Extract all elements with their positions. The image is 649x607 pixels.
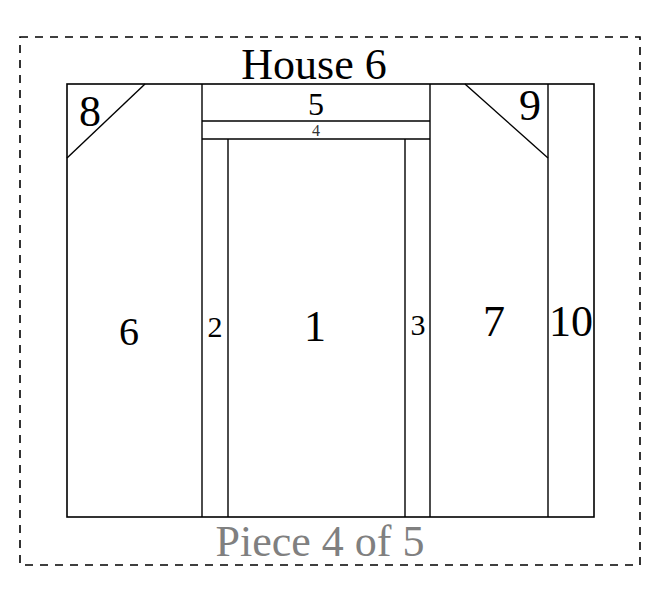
outer-block: [67, 84, 594, 517]
diagram-title: House 6: [241, 43, 386, 87]
piece-label-6: 6: [119, 312, 139, 352]
cut-line-dashed-border: [20, 37, 640, 565]
piece-label-8: 8: [79, 90, 101, 134]
piece-label-7: 7: [483, 300, 505, 344]
piece-label-2: 2: [208, 312, 223, 342]
piece-label-1: 1: [304, 305, 326, 349]
piece-count-footer: Piece 4 of 5: [216, 520, 425, 564]
piece-label-3: 3: [411, 310, 426, 340]
piece-label-4: 4: [312, 123, 320, 139]
piece-label-9: 9: [519, 84, 541, 128]
piece-label-10: 10: [549, 300, 593, 344]
piece-label-5: 5: [308, 88, 324, 120]
